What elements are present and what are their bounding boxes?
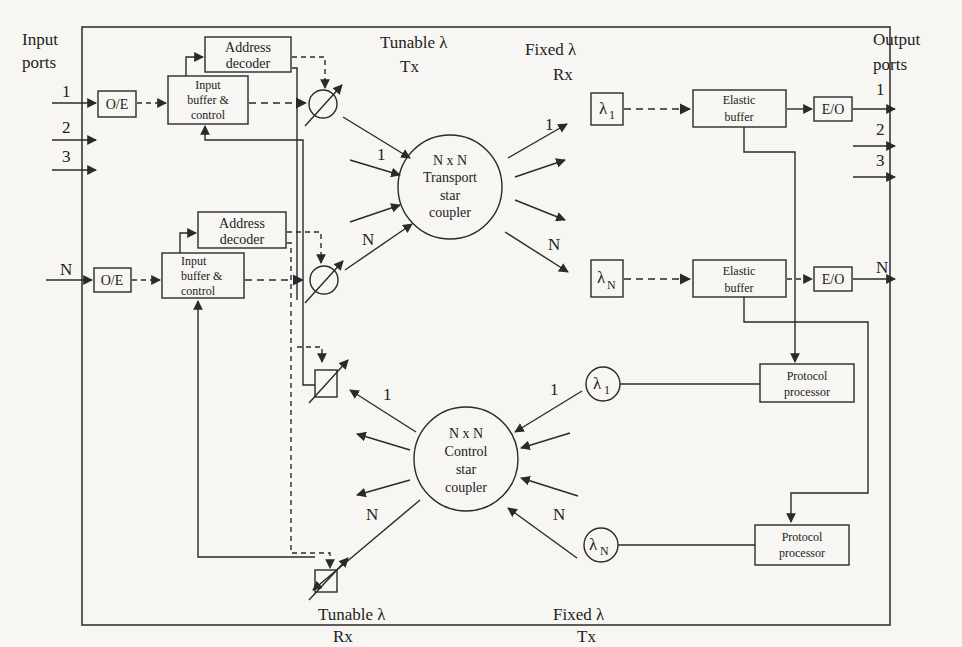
svg-text:star: star <box>440 188 461 203</box>
fixed-transmitter-1: λ 1 <box>586 367 620 401</box>
svg-text:decoder: decoder <box>220 232 265 247</box>
svg-text:Address: Address <box>219 216 265 231</box>
svg-text:Control: Control <box>445 444 488 459</box>
control-out-n-label: N <box>366 505 378 524</box>
fixed-receiver-n: λ N <box>591 260 623 297</box>
transport-out-n-label: N <box>548 235 560 254</box>
tunable-tx-label-2: Tx <box>400 57 419 76</box>
input-port-1-label: 1 <box>62 82 71 101</box>
svg-text:Protocol: Protocol <box>787 369 828 383</box>
svg-text:λ: λ <box>599 99 608 118</box>
elastic-buffer-n: Elastic buffer <box>693 260 786 297</box>
tunable-transmitter-n <box>305 261 343 303</box>
control-out-1-label: 1 <box>383 385 392 404</box>
svg-text:N: N <box>600 544 609 558</box>
transport-out-1-label: 1 <box>545 115 554 134</box>
fixed-tx-label-2: Tx <box>577 627 596 646</box>
protocol-processor-1: Protocol processor <box>760 364 854 402</box>
svg-text:E/O: E/O <box>822 102 845 117</box>
output-port-1-label: 1 <box>876 80 885 99</box>
svg-text:1: 1 <box>604 383 610 397</box>
svg-text:Input: Input <box>195 78 221 92</box>
svg-text:buffer: buffer <box>724 281 753 295</box>
tunable-tx-label: Tunable λ <box>380 33 448 52</box>
svg-text:E/O: E/O <box>822 272 845 287</box>
svg-text:Transport: Transport <box>423 170 477 185</box>
svg-text:Protocol: Protocol <box>782 530 823 544</box>
svg-text:Input: Input <box>181 254 207 268</box>
address-decoder-1: Address decoder <box>205 37 291 72</box>
svg-text:N x N: N x N <box>449 426 483 441</box>
output-ports-label-2: ports <box>873 55 907 74</box>
tunable-receiver-n <box>309 558 348 600</box>
tunable-rx-label: Tunable λ <box>318 605 386 624</box>
oe-converter-n: O/E <box>94 268 131 292</box>
svg-text:coupler: coupler <box>445 480 487 495</box>
control-star-coupler: N x N Control star coupler <box>414 407 518 511</box>
eo-converter-1: E/O <box>814 97 852 121</box>
tunable-rx-label-2: Rx <box>333 627 353 646</box>
input-port-n-label: N <box>60 260 72 279</box>
input-port-2-label: 2 <box>62 118 71 137</box>
svg-text:buffer: buffer <box>724 110 753 124</box>
svg-text:processor: processor <box>779 546 825 560</box>
svg-text:control: control <box>181 284 216 298</box>
svg-text:Address: Address <box>225 40 271 55</box>
protocol-processor-n: Protocol processor <box>755 525 849 565</box>
svg-text:O/E: O/E <box>106 97 129 112</box>
fixed-receiver-1: λ 1 <box>591 93 623 125</box>
fixed-rx-label-2: Rx <box>553 65 573 84</box>
transport-in-1-label: 1 <box>377 145 386 164</box>
control-in-1-label: 1 <box>550 380 559 399</box>
transport-star-coupler: N x N Transport star coupler <box>398 135 502 239</box>
fixed-tx-label: Fixed λ <box>553 605 605 624</box>
svg-text:λ: λ <box>597 268 606 287</box>
address-decoder-n: Address decoder <box>198 212 286 248</box>
svg-text:λ: λ <box>589 535 598 554</box>
input-ports-label: Input <box>22 30 58 49</box>
output-port-2-label: 2 <box>876 120 885 139</box>
tunable-receiver-1 <box>309 360 348 403</box>
svg-text:decoder: decoder <box>226 56 271 71</box>
fixed-transmitter-n: λ N <box>584 528 618 562</box>
svg-text:λ: λ <box>593 374 602 393</box>
fixed-rx-label: Fixed λ <box>525 40 577 59</box>
transport-in-n-label: N <box>362 230 374 249</box>
input-buffer-control-1: Input buffer & control <box>168 76 248 124</box>
svg-text:N x N: N x N <box>433 153 467 168</box>
svg-text:1: 1 <box>609 108 615 122</box>
svg-text:control: control <box>191 108 226 122</box>
input-port-3-label: 3 <box>62 147 71 166</box>
output-port-3-label: 3 <box>876 151 885 170</box>
svg-text:coupler: coupler <box>429 205 471 220</box>
svg-text:buffer &: buffer & <box>187 93 229 107</box>
svg-text:buffer &: buffer & <box>181 269 223 283</box>
output-ports-label: Output <box>873 30 921 49</box>
oe-converter-1: O/E <box>98 91 136 117</box>
switch-block-diagram: Input ports 1 2 3 N O/E Address decoder … <box>0 0 962 647</box>
svg-text:Elastic: Elastic <box>723 264 756 278</box>
elastic-buffer-1: Elastic buffer <box>693 90 786 127</box>
svg-text:O/E: O/E <box>101 273 124 288</box>
svg-text:processor: processor <box>784 385 830 399</box>
svg-text:Elastic: Elastic <box>723 93 756 107</box>
input-buffer-control-n: Input buffer & control <box>162 253 244 298</box>
output-port-n-label: N <box>876 258 888 277</box>
input-ports-label-2: ports <box>22 53 56 72</box>
svg-text:N: N <box>607 278 616 292</box>
eo-converter-n: E/O <box>814 267 852 291</box>
control-in-n-label: N <box>553 505 565 524</box>
svg-text:star: star <box>456 462 477 477</box>
tunable-transmitter-1 <box>305 85 342 126</box>
